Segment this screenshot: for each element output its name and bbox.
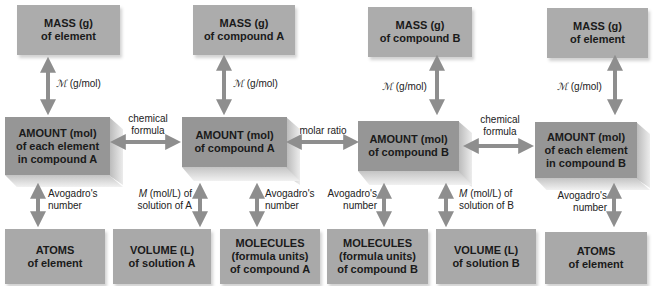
mass-compound-a-box: MASS (g) of compound A xyxy=(193,5,295,55)
box-title: MASS (g) xyxy=(204,17,284,30)
atoms-element-a-box: ATOMS of element xyxy=(5,229,105,284)
amount-box-face: AMOUNT (mol) of compound A xyxy=(182,117,287,167)
molar-mass-label-2: ℳ (g/mol) xyxy=(233,78,278,90)
molar-mass-label-3: ℳ (g/mol) xyxy=(382,81,427,93)
avogadro-label-4: Avogadro's number xyxy=(545,190,607,214)
box-subtitle: of compound B xyxy=(337,263,418,276)
box-title: MOLECULES xyxy=(337,237,418,250)
molecules-compound-a-box: MOLECULES (formula units) of compound A xyxy=(220,229,320,284)
box-subtitle: of solution A xyxy=(129,257,196,270)
box-title: MASS (g) xyxy=(570,20,625,33)
molar-mass-label-4: ℳ (g/mol) xyxy=(557,81,602,93)
box-title: ATOMS xyxy=(27,244,82,257)
box-bevel-side xyxy=(636,122,650,188)
box-title: AMOUNT (mol) xyxy=(544,131,627,144)
molecules-compound-b-box: MOLECULES (formula units) of compound B xyxy=(327,229,428,284)
volume-solution-a-box: VOLUME (L) of solution A xyxy=(113,229,211,284)
amount-box-face: AMOUNT (mol) of each element in compound… xyxy=(5,117,110,175)
box-subtitle: of element xyxy=(570,33,625,46)
avogadro-label-1: Avogadro's number xyxy=(48,188,98,212)
box-subtitle: in compound A xyxy=(16,153,99,166)
box-title: MASS (g) xyxy=(380,19,461,32)
box-subtitle: (formula units) xyxy=(230,250,310,263)
box-subtitle: of compound A xyxy=(194,142,274,155)
avogadro-label-2: Avogadro's number xyxy=(265,188,315,212)
mass-element-a-box: MASS (g) of element xyxy=(17,5,120,55)
box-subtitle: of each element xyxy=(544,144,627,157)
box-subtitle: of compound B xyxy=(380,32,461,45)
atoms-element-b-box: ATOMS of element xyxy=(545,232,647,284)
box-subtitle: (formula units) xyxy=(337,250,418,263)
box-subtitle: of element xyxy=(41,30,96,43)
box-bevel-bottom xyxy=(535,178,650,190)
box-title: VOLUME (L) xyxy=(452,244,519,257)
box-title: MASS (g) xyxy=(41,17,96,30)
box-subtitle: of each element xyxy=(16,140,99,153)
box-bevel-bottom xyxy=(182,167,300,181)
box-subtitle: of compound B xyxy=(368,146,449,159)
amount-box-face: AMOUNT (mol) of compound B xyxy=(358,121,459,171)
volume-solution-b-box: VOLUME (L) of solution B xyxy=(436,229,536,284)
chemical-formula-label-b: chemical formula xyxy=(470,114,530,138)
mass-compound-b-box: MASS (g) of compound B xyxy=(368,7,472,57)
box-title: VOLUME (L) xyxy=(129,244,196,257)
chemical-formula-label-a: chemical formula xyxy=(118,113,178,137)
box-subtitle: of solution B xyxy=(452,257,519,270)
amount-box-face: AMOUNT (mol) of each element in compound… xyxy=(535,122,637,178)
mass-element-b-box: MASS (g) of element xyxy=(547,8,648,58)
box-bevel-bottom xyxy=(5,175,123,187)
box-title: MOLECULES xyxy=(230,237,310,250)
box-title: AMOUNT (mol) xyxy=(368,133,449,146)
molar-mass-label-1: ℳ (g/mol) xyxy=(56,78,101,90)
molar-ratio-label: molar ratio xyxy=(293,125,353,137)
box-title: ATOMS xyxy=(568,245,623,258)
box-subtitle: in compound B xyxy=(544,157,627,170)
box-title: AMOUNT (mol) xyxy=(16,127,99,140)
box-bevel-bottom xyxy=(358,171,472,185)
box-subtitle: of compound A xyxy=(204,30,284,43)
box-subtitle: of element xyxy=(568,258,623,271)
box-title: AMOUNT (mol) xyxy=(194,129,274,142)
box-subtitle: of element xyxy=(27,257,82,270)
molarity-label-b: M (mol/L) of solution of B xyxy=(459,188,514,212)
molarity-label-a: M (mol/L) of solution of A xyxy=(130,188,192,212)
box-subtitle: of compound A xyxy=(230,263,310,276)
avogadro-label-3: Avogadro's number xyxy=(320,188,377,212)
